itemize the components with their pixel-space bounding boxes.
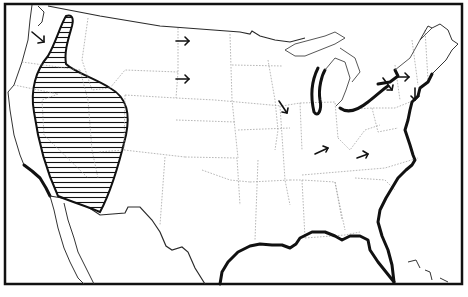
- arrow-pacific-northwest: [32, 32, 44, 43]
- lake-erie-shore: [340, 86, 388, 111]
- southern-california-coast: [24, 165, 50, 196]
- map-canvas: [0, 0, 468, 297]
- puget-sound: [38, 6, 44, 26]
- arrow-virginia: [357, 151, 368, 158]
- michigan-thumb: [325, 58, 350, 106]
- hatched-region: [33, 15, 128, 212]
- mexico-border: [50, 196, 205, 284]
- baja-california-west: [50, 196, 84, 284]
- lake-michigan-shore: [312, 68, 325, 114]
- baja-california-east: [64, 203, 94, 284]
- arrow-kentucky: [315, 146, 328, 154]
- atlantic-coast: [378, 74, 432, 282]
- gulf-coast: [220, 232, 394, 284]
- lake-ontario-shore: [378, 70, 398, 84]
- northern-border: [48, 6, 305, 42]
- pacific-coast: [8, 5, 32, 165]
- maine-coast: [432, 24, 458, 74]
- lake-superior: [285, 32, 345, 56]
- us-map: Contiguous United States outline map: [0, 0, 468, 297]
- arrow-new-york-east: [398, 73, 409, 81]
- great-lakes: [285, 28, 432, 114]
- bahamas: [408, 260, 448, 282]
